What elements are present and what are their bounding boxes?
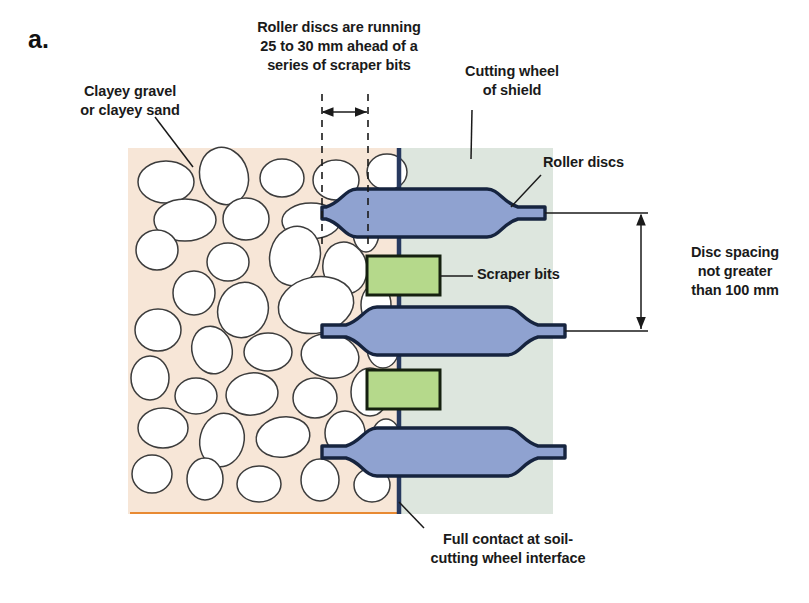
scraper-bit-lower — [367, 370, 440, 409]
figure-canvas: a. Clayey gravel or clayey sand Roller d… — [0, 0, 809, 603]
label-roller-discs: Roller discs — [543, 153, 683, 172]
leader-cutting-wheel — [471, 110, 472, 159]
panel-label: a. — [28, 25, 49, 54]
label-disc-spacing: Disc spacing not greater than 100 mm — [664, 243, 806, 300]
label-full-contact: Full contact at soil- cutting wheel inte… — [388, 530, 628, 568]
label-scraper-bits: Scraper bits — [477, 265, 637, 284]
label-cutting-wheel: Cutting wheel of shield — [436, 62, 588, 100]
scraper-bit-upper — [367, 256, 440, 295]
label-soil-material: Clayey gravel or clayey sand — [40, 82, 220, 120]
label-roller-lead-distance: Roller discs are running 25 to 30 mm ahe… — [228, 18, 450, 75]
